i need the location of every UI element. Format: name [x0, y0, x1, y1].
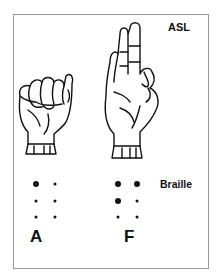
braille-dot-flat — [136, 216, 139, 219]
braille-dot-flat — [136, 200, 139, 203]
braille-dot-raised — [115, 198, 121, 204]
braille-dot-flat — [54, 216, 57, 219]
braille-dot-raised — [115, 181, 121, 187]
braille-dot-flat — [35, 216, 38, 219]
braille-dot-flat — [117, 216, 120, 219]
braille-dot-raised — [134, 181, 140, 187]
asl-hand-f-icon — [100, 22, 166, 160]
braille-label: Braille — [160, 178, 192, 190]
braille-dot-raised — [33, 181, 39, 187]
asl-label: ASL — [168, 21, 190, 33]
braille-dot-flat — [35, 200, 38, 203]
asl-hand-a-icon — [14, 70, 78, 158]
letter-f-label: F — [124, 228, 134, 245]
braille-dot-flat — [54, 200, 57, 203]
letter-a-label: A — [30, 228, 42, 245]
braille-dot-flat — [54, 183, 57, 186]
